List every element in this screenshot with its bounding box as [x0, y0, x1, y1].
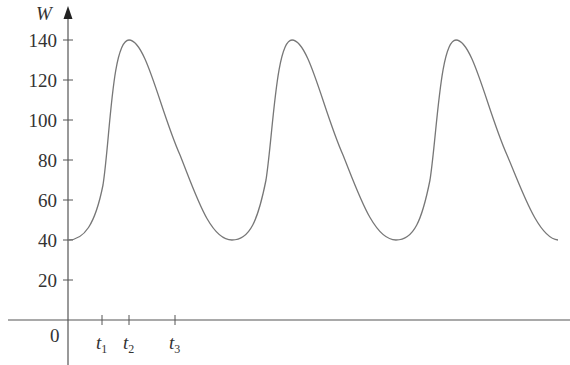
- y-tick-labels: 140 120 100 80 60 40 20: [29, 30, 58, 291]
- y-tick-120: 120: [29, 70, 58, 91]
- origin-label: 0: [50, 325, 60, 346]
- chart: W 140 120 100 80 60 40 20 0 t1 t2 t3: [0, 0, 570, 365]
- y-tick-100: 100: [29, 110, 58, 131]
- y-tick-20: 20: [38, 270, 57, 291]
- y-tick-40: 40: [38, 230, 57, 251]
- y-tick-60: 60: [38, 190, 57, 211]
- x-tick-t1: t1: [96, 332, 107, 356]
- x-tick-t3: t3: [169, 332, 180, 356]
- y-tick-80: 80: [38, 150, 57, 171]
- y-axis-arrow-icon: [64, 6, 73, 19]
- y-tick-140: 140: [29, 30, 58, 51]
- x-tick-t2: t2: [123, 332, 134, 356]
- w-curve: [68, 40, 558, 240]
- y-axis-label: W: [36, 3, 54, 24]
